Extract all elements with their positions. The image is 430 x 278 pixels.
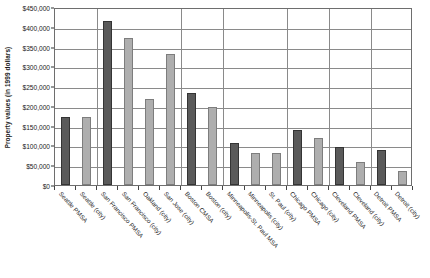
bar xyxy=(208,107,217,185)
y-axis-title-text: Property values (in 1999 dollars) xyxy=(5,47,12,149)
y-axis-tick-label: $100,000 xyxy=(10,143,50,150)
bar xyxy=(145,99,154,185)
bar xyxy=(61,117,70,185)
bar xyxy=(356,162,365,185)
bar xyxy=(124,38,133,185)
bar xyxy=(103,21,112,185)
y-axis-tick-label: $450,000 xyxy=(10,5,50,12)
bar xyxy=(293,130,302,185)
bar-chart: Property values (in 1999 dollars) $450,0… xyxy=(0,0,430,278)
y-axis-tick-label: $50,000 xyxy=(10,163,50,170)
x-axis-tick-label: San Francisco (city) xyxy=(121,190,163,236)
y-axis-tick-label: $250,000 xyxy=(10,84,50,91)
bar xyxy=(187,93,196,185)
bar xyxy=(166,54,175,185)
bar xyxy=(251,153,260,185)
bar xyxy=(272,153,281,185)
bar xyxy=(314,138,323,185)
bars-layer xyxy=(55,9,411,185)
plot-area xyxy=(54,8,412,186)
y-axis-tick-label: $400,000 xyxy=(10,24,50,31)
bar xyxy=(398,171,407,185)
y-axis-tick-label: $300,000 xyxy=(10,64,50,71)
y-axis-tick-label: $0 xyxy=(10,183,50,190)
y-axis-tick-label: $200,000 xyxy=(10,103,50,110)
y-axis-tick-label: $350,000 xyxy=(10,44,50,51)
bar xyxy=(82,117,91,185)
x-axis-tick-labels: Seattle PMSASeattle (city)San Francisco … xyxy=(54,190,430,278)
bar xyxy=(230,143,239,185)
bar xyxy=(377,150,386,185)
y-axis-tick-labels: $450,000$400,000$350,000$300,000$250,000… xyxy=(14,8,54,186)
y-axis-tick-label: $150,000 xyxy=(10,123,50,130)
bar xyxy=(335,147,344,185)
